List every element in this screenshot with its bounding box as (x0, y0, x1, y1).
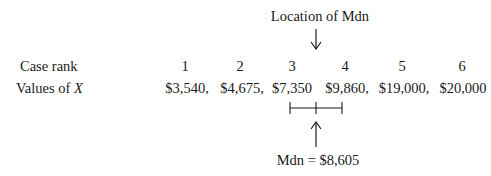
median-bracket (290, 102, 342, 114)
value-3: $7,350 (272, 81, 312, 96)
rank-1: 1 (181, 59, 188, 74)
value-6: $20,000 (439, 81, 486, 96)
values-of-x-label: Values of X (16, 81, 83, 96)
median-value-label: Mdn = $8,605 (277, 153, 360, 168)
variable-x: X (74, 80, 83, 96)
rank-5: 5 (398, 59, 405, 74)
case-rank-label: Case rank (20, 59, 78, 74)
value-5: $19,000, (379, 81, 430, 96)
value-4: $9,860, (325, 81, 369, 96)
rank-4: 4 (341, 59, 348, 74)
value-1: $3,540, (165, 81, 209, 96)
value-2: $4,675, (220, 81, 264, 96)
up-arrow-icon (311, 122, 321, 147)
rank-6: 6 (458, 59, 465, 74)
values-label-text: Values of (16, 80, 74, 96)
rank-3: 3 (288, 59, 295, 74)
rank-2: 2 (236, 59, 243, 74)
down-arrow-icon (311, 29, 321, 49)
